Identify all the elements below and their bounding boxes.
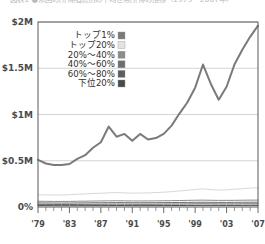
x-axis-labels: '79'83'87'91'95'99'03'07 — [31, 220, 265, 229]
series-line — [38, 188, 258, 195]
x-axis-label: '99 — [188, 220, 202, 229]
x-axis-label: '83 — [63, 220, 77, 229]
legend-swatch — [118, 32, 125, 39]
legend-label: 40%〜60% — [68, 59, 115, 69]
chart-legend: トップ1%トップ20%20%〜40%40%〜60%60%〜80%下位20% — [68, 30, 125, 88]
x-tick-marks — [38, 207, 258, 213]
x-axis-label: '03 — [220, 220, 234, 229]
legend-label: トップ20% — [69, 40, 115, 50]
legend-swatch — [118, 80, 125, 87]
series-line — [38, 202, 258, 203]
series-line — [38, 200, 258, 201]
chart-svg: 0%$0.5M$1M$1.5M$2M '79'83'87'91'95'99'03… — [0, 0, 265, 244]
x-axis-label: '87 — [94, 220, 108, 229]
legend-label: トップ1% — [74, 30, 115, 40]
y-axis-label: 0% — [18, 202, 33, 212]
y-axis-labels: 0%$0.5M$1M$1.5M$2M — [2, 17, 33, 212]
legend-swatch — [118, 42, 125, 49]
y-axis-label: $0.5M — [2, 156, 33, 166]
x-axis-label: '79 — [31, 220, 45, 229]
legend-label: 20%〜40% — [68, 50, 115, 60]
x-axis-label: '07 — [251, 220, 265, 229]
y-axis-label: $1M — [12, 110, 34, 120]
income-by-percentile-chart: 0%$0.5M$1M$1.5M$2M '79'83'87'91'95'99'03… — [0, 0, 265, 244]
legend-swatch — [118, 51, 125, 58]
legend-swatch — [118, 61, 125, 68]
series-line — [38, 204, 258, 205]
legend-swatch — [118, 70, 125, 77]
x-axis-label: '91 — [125, 220, 139, 229]
y-axis-label: $2M — [12, 17, 34, 27]
legend-label: 下位20% — [78, 77, 115, 88]
legend-label: 60%〜80% — [68, 69, 115, 79]
y-axis-label: $1.5M — [2, 63, 33, 73]
x-axis-label: '95 — [157, 220, 171, 229]
